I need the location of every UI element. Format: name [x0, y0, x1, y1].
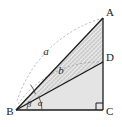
vertex-label-c: C — [106, 105, 113, 117]
vertex-label-b: B — [6, 105, 13, 117]
arc-label-a: a — [43, 45, 49, 57]
vertex-label-a: A — [106, 6, 114, 18]
arc-label-b: b — [58, 64, 64, 76]
angle-label-beta: β — [26, 99, 32, 109]
vertex-label-d: D — [106, 51, 114, 63]
angle-label-alpha: α — [38, 98, 43, 108]
geometry-svg-canvas: A B C D a b α β — [0, 0, 122, 127]
geometry-figure: A B C D a b α β — [0, 0, 122, 127]
